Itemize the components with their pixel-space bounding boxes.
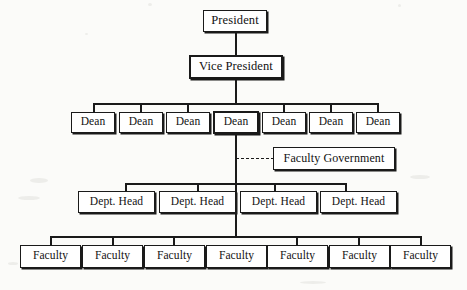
node-vice-president[interactable]: Vice President: [189, 55, 283, 79]
node-label: Faculty Government: [284, 152, 385, 165]
node-label: Faculty: [95, 250, 130, 263]
node-faculty-1[interactable]: Faculty: [20, 245, 81, 268]
node-dean-5[interactable]: Dean: [262, 112, 306, 133]
bus-faculty: [50, 236, 420, 238]
connector-vp-deanbus: [235, 79, 237, 104]
node-label: Dept. Head: [171, 196, 224, 209]
node-label: Vice President: [199, 60, 273, 74]
node-dept-head-2[interactable]: Dept. Head: [159, 191, 236, 213]
node-label: Faculty: [33, 250, 68, 263]
node-label: Dean: [81, 116, 106, 129]
node-dean-4[interactable]: Dean: [213, 111, 259, 134]
node-label: Dept. Head: [90, 196, 143, 209]
node-label: Dean: [129, 116, 154, 129]
node-dept-head-4[interactable]: Dept. Head: [320, 191, 397, 213]
node-faculty-7[interactable]: Faculty: [390, 245, 451, 268]
node-label: Dept. Head: [332, 196, 385, 209]
org-chart: President Vice President Dean Dean Dean …: [0, 0, 467, 290]
scan-speckle: [85, 33, 88, 35]
node-faculty-2[interactable]: Faculty: [82, 245, 143, 268]
node-label: Dean: [176, 116, 201, 129]
node-label: Faculty: [157, 250, 192, 263]
node-faculty-6[interactable]: Faculty: [329, 245, 390, 268]
scan-speckle: [398, 4, 401, 7]
node-label: Dean: [319, 116, 344, 129]
trunk-main: [235, 134, 237, 236]
node-president[interactable]: President: [203, 10, 267, 32]
node-label: Faculty: [219, 250, 254, 263]
node-faculty-3[interactable]: Faculty: [144, 245, 205, 268]
node-dean-1[interactable]: Dean: [71, 112, 115, 133]
node-label: Faculty: [342, 250, 377, 263]
scan-speckle: [410, 175, 430, 179]
node-faculty-government[interactable]: Faculty Government: [273, 147, 395, 170]
scan-speckle: [148, 3, 152, 6]
scan-speckle: [300, 281, 326, 284]
node-label: Faculty: [403, 250, 438, 263]
node-dean-3[interactable]: Dean: [166, 112, 210, 133]
node-dept-head-1[interactable]: Dept. Head: [78, 191, 155, 213]
node-dept-head-3[interactable]: Dept. Head: [240, 191, 317, 213]
node-dean-2[interactable]: Dean: [119, 112, 163, 133]
scan-speckle: [30, 178, 48, 183]
node-dean-6[interactable]: Dean: [309, 112, 353, 133]
node-dean-7[interactable]: Dean: [356, 112, 400, 133]
node-faculty-4[interactable]: Faculty: [206, 245, 267, 268]
node-label: Faculty: [280, 250, 315, 263]
node-label: Dean: [224, 116, 249, 129]
node-label: President: [211, 14, 258, 28]
scan-speckle: [8, 262, 18, 265]
scan-speckle: [18, 196, 40, 200]
node-faculty-5[interactable]: Faculty: [267, 245, 328, 268]
node-label: Dean: [366, 116, 391, 129]
connector-president-vp: [235, 32, 237, 55]
node-label: Dept. Head: [252, 196, 305, 209]
connector-advisory-dashed: [236, 158, 274, 159]
node-label: Dean: [272, 116, 297, 129]
